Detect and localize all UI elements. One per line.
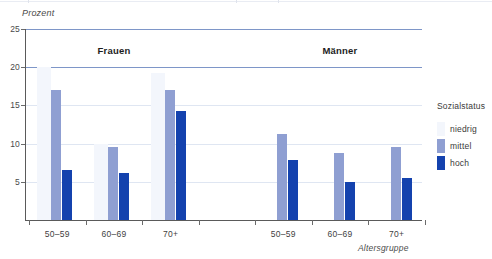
gridline-25 (26, 29, 422, 30)
x-tick-label: 70+ (389, 229, 404, 239)
legend-swatch (437, 122, 445, 136)
bar (402, 178, 412, 220)
x-tick-mark (199, 220, 200, 225)
x-axis-line (25, 220, 422, 221)
y-tick-label: 10 (10, 139, 20, 149)
bar (345, 182, 355, 220)
legend-label: hoch (450, 158, 469, 168)
top-clipped-rule (0, 1, 492, 2)
bar (62, 170, 72, 220)
legend-label: niedrig (450, 124, 477, 134)
x-tick-mark (86, 220, 87, 225)
plot-area: 252015105 FrauenMänner 50–5960–6970+50–5… (25, 29, 421, 220)
y-tick-label: 15 (10, 100, 20, 110)
bar (37, 67, 51, 220)
bar (391, 147, 401, 220)
y-tick-mark (21, 182, 25, 183)
legend-label: mittel (450, 141, 472, 151)
x-axis-title: Altersgruppe (358, 243, 409, 253)
x-tick-label: 70+ (163, 229, 178, 239)
gridline-5 (26, 182, 422, 183)
y-tick-label: 20 (10, 62, 20, 72)
bar (176, 111, 186, 220)
y-tick-mark (21, 105, 25, 106)
x-tick-mark (312, 220, 313, 225)
y-tick-label: 25 (10, 24, 20, 34)
panel-heading-männer: Männer (323, 45, 358, 56)
legend-swatch (437, 156, 445, 170)
bar (334, 153, 344, 220)
bar (94, 144, 108, 220)
y-tick-mark (21, 29, 25, 30)
legend-items: niedrigmittelhoch (437, 120, 492, 171)
legend-item: mittel (437, 137, 492, 154)
x-tick-label: 50–59 (271, 229, 296, 239)
gridline-20 (26, 67, 422, 68)
top-clipped-tick (28, 0, 29, 3)
x-tick-mark (255, 220, 256, 225)
grouped-bar-chart: Prozent Altersgruppe 252015105 FrauenMän… (0, 0, 492, 259)
x-tick-label: 50–59 (45, 229, 70, 239)
legend-item: niedrig (437, 120, 492, 137)
bar (165, 90, 175, 220)
bar (277, 134, 287, 220)
legend: Sozialstatus niedrigmittelhoch (437, 101, 492, 171)
x-tick-label: 60–69 (327, 229, 352, 239)
bar (119, 173, 129, 220)
panel-heading-frauen: Frauen (98, 45, 131, 56)
top-clipped-tick (278, 0, 279, 3)
gridline-10 (26, 144, 422, 145)
legend-item: hoch (437, 154, 492, 171)
bar (151, 73, 165, 220)
y-axis-title: Prozent (22, 8, 54, 18)
y-tick-mark (21, 144, 25, 145)
y-axis-line (25, 29, 26, 221)
y-tick-mark (21, 67, 25, 68)
bar (288, 160, 298, 220)
y-tick-label: 5 (15, 177, 20, 187)
x-tick-mark (142, 220, 143, 225)
legend-title: Sozialstatus (437, 101, 492, 111)
x-tick-mark (368, 220, 369, 225)
x-tick-mark (425, 220, 426, 225)
bar (51, 90, 61, 220)
bar (108, 147, 118, 220)
top-clipped-tick (236, 0, 237, 3)
x-tick-label: 60–69 (101, 229, 126, 239)
x-tick-mark (29, 220, 30, 225)
gridline-15 (26, 105, 422, 106)
legend-swatch (437, 139, 445, 153)
